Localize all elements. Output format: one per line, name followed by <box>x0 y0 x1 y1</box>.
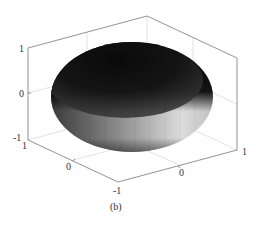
z-tick-0: 0 <box>19 88 24 99</box>
z-tick-neg1: -1 <box>13 132 21 143</box>
corner-tick-neg1: -1 <box>113 185 121 196</box>
x-tick-0: 0 <box>179 167 184 178</box>
z-tick-1: 1 <box>19 43 24 54</box>
figure-caption: (b) <box>110 201 122 213</box>
spheroid-surface <box>47 40 215 155</box>
spheroid-3d-plot: 1 0 -1 1 0 -1 0 1 (b) <box>0 0 256 228</box>
x-tick-1: 1 <box>242 146 247 157</box>
y-tick-0: 0 <box>66 161 71 172</box>
y-tick-1: 1 <box>22 140 27 151</box>
